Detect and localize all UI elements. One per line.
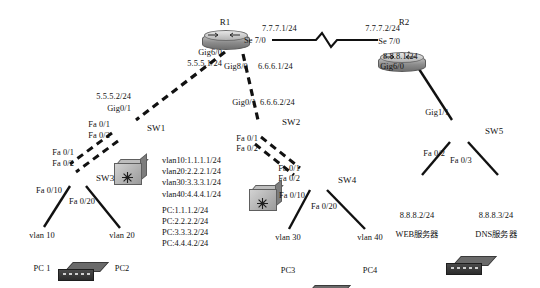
sw4-fa020-port-label: Fa 0/20 [311, 202, 337, 211]
vlan-gateway-1: vlan20:2.2.2.1/24 [162, 166, 221, 177]
r1-gig60-port-label: Gig6/0 [198, 48, 222, 57]
pc-address-1: PC:2.2.2.2/24 [162, 216, 221, 227]
device-switch-sw3[interactable] [58, 262, 98, 280]
multilayer-star-icon [122, 169, 133, 180]
sw4-fa02-port-label: Fa 0/2 [278, 174, 300, 183]
sw4-fa01-port-label: Fa 0/1 [278, 164, 300, 173]
sw2-fa01-port-label: Fa 0/1 [236, 134, 258, 143]
pc3-vlan-label: vlan 30 [275, 233, 301, 242]
r2-serial-ip-label: 7.7.7.2/24 [365, 24, 400, 33]
network-topology-diagram: R1 Se 7/0 7.7.7.1/24 Gig6/0 5.5.5.1/24 G… [0, 0, 540, 288]
link-r1-r2-serial [272, 33, 378, 47]
switch-sw2-name: SW2 [282, 118, 300, 127]
vlan-gateway-2: vlan30:3.3.3.1/24 [162, 177, 221, 188]
sw3-fa010-port-label: Fa 0/10 [36, 186, 62, 195]
pc-address-3: PC:4.4.4.2/24 [162, 238, 221, 249]
sw1-fa02-port-label: Fa 0/2 [88, 131, 110, 140]
pc2-vlan-label: vlan 20 [109, 231, 135, 240]
sw2-fa02-port-label: Fa 0/2 [236, 144, 258, 153]
r2-se70-port-label: Se 7/0 [378, 37, 400, 46]
switch-sw4-name: SW4 [338, 176, 356, 185]
r1-gig80-ip-label: 6.6.6.1/24 [258, 62, 293, 71]
pc3-name: PC3 [281, 266, 296, 275]
link-layer [0, 0, 540, 288]
sw5-fa02-port-label: Fa 0/2 [423, 149, 445, 158]
link-sw3-pc2 [86, 186, 120, 228]
switch-sw5-name: SW5 [485, 127, 503, 136]
pc2-name: PC2 [115, 264, 130, 273]
pc-address-0: PC:1.1.1.2/24 [162, 205, 221, 216]
r1-serial-ip-label: 7.7.7.1/24 [262, 24, 297, 33]
sw1-gig01-ip-label: 5.5.5.2/24 [96, 92, 131, 101]
r1-gig80-port-label: Gig8/0 [224, 62, 248, 71]
vlan-gateway-3: vlan40:4.4.4.1/24 [162, 189, 221, 200]
sw2-gig01-ip-label: 6.6.6.2/24 [260, 98, 295, 107]
multilayer-star-icon [257, 195, 268, 206]
pc1-name: PC 1 [34, 264, 51, 273]
link-sw5-web [422, 142, 450, 175]
web-server-name: WEB服务器 [395, 230, 438, 239]
sw3-fa01-port-label: Fa 0/1 [52, 148, 74, 157]
r1-se70-port-label: Se 7/0 [244, 36, 266, 45]
switch-front-face [58, 269, 94, 281]
dns-server-name: DNS服务器 [475, 230, 516, 239]
r2-gig60-port-label: Gig6/0 [380, 62, 404, 71]
router-arrow-icon [208, 32, 222, 38]
pc4-vlan-label: vlan 40 [357, 233, 383, 242]
sw5-fa03-port-label: Fa 0/3 [450, 156, 472, 165]
sw1-gig01-port-label: Gig0/1 [107, 104, 131, 113]
device-switch-sw1[interactable] [114, 159, 144, 185]
switch-sw1-name: SW1 [147, 124, 165, 133]
device-switch-sw5[interactable] [446, 256, 486, 274]
r1-gig60-ip-label: 5.5.5.1/24 [187, 59, 222, 68]
sw2-gig01-port-label: Gig0/1 [232, 98, 256, 107]
sw4-fa010-port-label: Fa 0/10 [279, 191, 305, 200]
switch-sw3-name: SW3 [96, 174, 114, 183]
router-arrow-icon [226, 32, 240, 38]
switch-front-face [446, 263, 482, 275]
r2-gig60-ip-label: 8.8.8.1/24 [383, 52, 418, 61]
pc1-vlan-label: vlan 10 [29, 231, 55, 240]
pc-address-2: PC:3.3.3.2/24 [162, 227, 221, 238]
sw3-fa020-port-label: Fa 0/20 [69, 197, 95, 206]
router-r1-name: R1 [220, 18, 231, 27]
pc4-name: PC4 [363, 266, 378, 275]
sw5-gig11-port-label: Gig1/1 [425, 108, 449, 117]
sw1-fa01-port-label: Fa 0/1 [88, 120, 110, 129]
link-sw5-dns [468, 142, 498, 175]
web-server-ip-label: 8.8.8.2/24 [400, 211, 435, 220]
sw3-fa02-port-label: Fa 0/2 [52, 159, 74, 168]
vlan-gateway-0: vlan10:1.1.1.1/24 [162, 155, 221, 166]
device-switch-sw2[interactable] [249, 185, 279, 211]
dns-server-ip-label: 8.8.8.3/24 [479, 211, 514, 220]
config-notes-block: vlan10:1.1.1.1/24 vlan20:2.2.2.1/24 vlan… [162, 155, 221, 250]
